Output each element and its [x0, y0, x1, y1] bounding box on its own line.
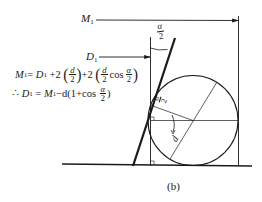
m1-dimension-line — [96, 20, 238, 21]
m1-label-main: M — [81, 12, 90, 24]
f1-frac2: d2 — [101, 66, 107, 83]
f1-cos: cos — [110, 69, 124, 81]
figure-caption: (b) — [167, 180, 180, 192]
f2-frac: α2 — [100, 85, 106, 102]
d1-label-main: D — [86, 50, 94, 62]
f2-m: M — [44, 88, 53, 100]
angle-arc-top — [151, 48, 168, 50]
f1-eq: = — [27, 69, 33, 81]
f2-frac-den: 2 — [100, 94, 106, 102]
f1-paren-close-2: ) — [133, 66, 138, 83]
base-line — [62, 164, 252, 166]
f1-paren-close-1: ) — [77, 66, 82, 83]
f1-plus2a: +2 — [50, 69, 61, 81]
f1-sub2: 1 — [43, 69, 47, 81]
f2-d: D — [22, 88, 30, 100]
f2-eq: = — [35, 88, 41, 100]
f2-therefore: ∴ — [12, 88, 19, 100]
f1-paren-open-1: ( — [63, 66, 68, 83]
tangent-radius-line — [150, 105, 193, 121]
f1-frac1: d2 — [69, 66, 75, 83]
f2-rest: −d(1+cos — [56, 88, 96, 100]
m1-label: M1 — [81, 13, 94, 28]
f1-plus2b: +2 — [82, 69, 93, 81]
angle-arc-inner — [172, 115, 174, 132]
f1-frac3: α2 — [126, 66, 132, 83]
f1-frac2-den: 2 — [101, 75, 107, 83]
measurement-diagram: M1 D1 α 2 α 2 d M1 = D1 +2 ( d2 ) +2 ( d… — [0, 0, 262, 202]
formula-m1: M1 = D1 +2 ( d2 ) +2 ( d2 cos α2 ) — [15, 66, 138, 83]
f1-d: D — [36, 69, 44, 81]
f2-close: ) — [107, 88, 111, 100]
m1-label-sub: 1 — [90, 18, 94, 26]
right-angle-mark-center — [151, 117, 155, 121]
f1-paren-open-2: ( — [95, 66, 100, 83]
half-angle-top-den: 2 — [157, 32, 165, 42]
f1-frac1-den: 2 — [69, 75, 75, 83]
d1-label-sub: 1 — [94, 56, 98, 64]
f2-sub1: 1 — [29, 88, 33, 100]
formula-d1: ∴ D1 = M1 −d(1+cos α2 ) — [12, 85, 111, 102]
f1-m: M — [15, 69, 24, 81]
f1-frac3-den: 2 — [126, 75, 132, 83]
